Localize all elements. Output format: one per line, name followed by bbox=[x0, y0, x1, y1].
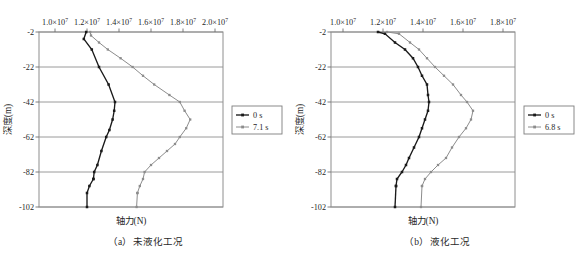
series-marker bbox=[425, 57, 427, 59]
series-marker bbox=[107, 48, 109, 50]
legend-label-1: 7.1 s bbox=[253, 123, 268, 132]
xtick-exponent-0: 7 bbox=[353, 17, 356, 23]
xtick-exponent-3: 7 bbox=[161, 17, 164, 23]
series-marker bbox=[433, 66, 435, 68]
ytick-label-4: -82 bbox=[23, 168, 34, 177]
xtick-mantissa-3: 1.6×10 bbox=[450, 18, 473, 27]
ytick-label-0: -2 bbox=[27, 28, 34, 37]
series-marker bbox=[90, 34, 92, 36]
series-marker bbox=[108, 129, 111, 132]
ytick-label-2: -42 bbox=[315, 98, 326, 107]
series-marker bbox=[442, 75, 444, 77]
xtick-exponent-5: 7 bbox=[225, 17, 228, 23]
series-marker bbox=[429, 171, 431, 173]
series-marker bbox=[450, 146, 452, 148]
xtick-exponent-0: 7 bbox=[65, 17, 68, 23]
xtick-label-4: 1.8×107 bbox=[490, 17, 516, 27]
ytick-label-5: -102 bbox=[19, 203, 34, 212]
xtick-mantissa-4: 1.8×10 bbox=[490, 18, 513, 27]
legend-label-0: 0 s bbox=[545, 111, 554, 120]
ytick-label-2: -42 bbox=[23, 98, 34, 107]
y-axis-title: 深度(m) bbox=[2, 104, 14, 135]
ytick-label-3: -62 bbox=[315, 133, 326, 142]
series-marker bbox=[465, 101, 467, 103]
series-marker bbox=[189, 118, 191, 120]
series-marker bbox=[142, 75, 144, 77]
xtick-label-0: 1.0×107 bbox=[42, 17, 68, 27]
series-line-68s-3 bbox=[421, 186, 422, 207]
series-marker bbox=[119, 57, 121, 59]
series-marker bbox=[417, 48, 419, 50]
series-marker bbox=[153, 83, 155, 85]
xtick-mantissa-1: 1.2×10 bbox=[370, 18, 393, 27]
xtick-exponent-4: 7 bbox=[513, 17, 516, 23]
series-marker bbox=[451, 83, 453, 85]
series-line-71s-3 bbox=[137, 193, 138, 207]
series-marker bbox=[179, 136, 181, 138]
series-marker bbox=[423, 178, 425, 180]
series-marker bbox=[425, 83, 428, 86]
series-line-0s-1 bbox=[395, 186, 396, 207]
series-marker bbox=[135, 206, 137, 208]
xtick-label-2: 1.4×107 bbox=[410, 17, 436, 27]
x-axis-title: 轴力(N) bbox=[116, 215, 147, 227]
chart-svg-b: 1.0×1071.2×1071.4×1071.6×1071.8×107-2-22… bbox=[292, 0, 583, 232]
series-marker bbox=[92, 178, 95, 181]
legend-marker-1 bbox=[241, 126, 244, 129]
series-marker bbox=[444, 157, 446, 159]
series-marker bbox=[111, 118, 114, 121]
series-marker bbox=[416, 66, 419, 69]
xtick-label-3: 1.6×107 bbox=[450, 17, 476, 27]
ytick-label-3: -62 bbox=[23, 133, 34, 142]
series-marker bbox=[397, 33, 399, 35]
panel-caption-b: （b）液化工况 bbox=[292, 234, 583, 248]
series-marker bbox=[394, 185, 397, 188]
series-marker bbox=[185, 127, 187, 129]
series-marker bbox=[100, 150, 103, 153]
series-marker bbox=[423, 118, 426, 121]
series-marker bbox=[168, 94, 170, 96]
series-marker bbox=[174, 143, 176, 145]
xtick-label-4: 1.8×107 bbox=[170, 17, 196, 27]
xtick-exponent-1: 7 bbox=[393, 17, 396, 23]
series-marker bbox=[131, 66, 133, 68]
xtick-mantissa-5: 2.0×10 bbox=[202, 18, 225, 27]
series-marker bbox=[426, 110, 429, 113]
ytick-label-1: -22 bbox=[315, 63, 326, 72]
legend-marker-0 bbox=[533, 114, 536, 117]
series-marker bbox=[457, 136, 459, 138]
series-marker bbox=[420, 127, 423, 130]
series-marker bbox=[139, 185, 141, 187]
series-marker bbox=[393, 206, 396, 209]
series-marker bbox=[96, 164, 99, 167]
series-marker bbox=[427, 101, 430, 104]
xtick-label-1: 1.2×107 bbox=[370, 17, 396, 27]
xtick-exponent-2: 7 bbox=[433, 17, 436, 23]
series-marker bbox=[464, 127, 466, 129]
series-marker bbox=[98, 66, 101, 69]
series-marker bbox=[86, 192, 89, 195]
series-marker bbox=[404, 164, 407, 167]
xtick-label-2: 1.4×107 bbox=[106, 17, 132, 27]
series-line-0s-0 bbox=[378, 32, 429, 186]
series-line-68s-2 bbox=[387, 32, 473, 186]
series-marker bbox=[89, 31, 91, 33]
series-marker bbox=[393, 41, 396, 44]
ytick-label-1: -22 bbox=[23, 63, 34, 72]
xtick-exponent-1: 7 bbox=[97, 17, 100, 23]
series-marker bbox=[403, 48, 406, 51]
series-marker bbox=[408, 41, 410, 43]
ytick-label-4: -82 bbox=[315, 168, 326, 177]
series-marker bbox=[183, 110, 185, 112]
series-marker bbox=[376, 31, 379, 34]
series-marker bbox=[86, 206, 89, 209]
series-line-71s-2 bbox=[90, 32, 190, 193]
series-marker bbox=[158, 157, 160, 159]
series-marker bbox=[420, 75, 423, 78]
series-marker bbox=[426, 94, 429, 97]
xtick-mantissa-0: 1.0×10 bbox=[42, 18, 65, 27]
series-marker bbox=[91, 48, 94, 51]
series-marker bbox=[150, 164, 152, 166]
legend-label-1: 6.8 s bbox=[545, 123, 560, 132]
series-marker bbox=[436, 164, 438, 166]
